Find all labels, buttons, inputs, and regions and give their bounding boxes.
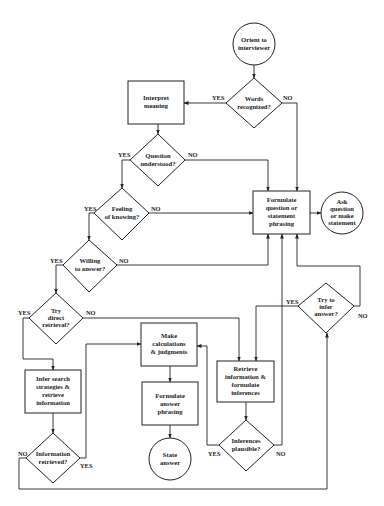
label-words-yes: YES	[212, 94, 225, 101]
edge-plausible-yes	[197, 346, 219, 445]
svg-text:question or: question or	[266, 204, 298, 211]
svg-text:retrieval?: retrieval?	[42, 321, 69, 328]
label-infer-yes: YES	[286, 298, 299, 305]
label-direct-no: NO	[86, 309, 96, 316]
node-information-retrieved: Information retrieved?	[26, 433, 80, 483]
node-formulate-question: Formulate question or statement phrasing	[253, 191, 310, 234]
edge-willing-yes	[56, 265, 63, 293]
svg-text:of knowing?: of knowing?	[105, 213, 140, 220]
node-feeling-of-knowing: Feeling of knowing?	[94, 188, 149, 240]
node-ask-question: Ask question or make statement	[321, 192, 363, 234]
svg-text:statement: statement	[268, 212, 296, 219]
svg-text:Try: Try	[51, 307, 62, 314]
svg-text:calculations: calculations	[152, 340, 186, 347]
node-try-to-infer: Try to infer answer?	[298, 283, 354, 333]
node-formulate-answer: Formulate answer phrasing	[142, 382, 198, 425]
label-willing-yes: YES	[50, 257, 63, 264]
node-retrieve-information: Retrieve information & formulate inferen…	[217, 361, 274, 402]
svg-text:plausible?: plausible?	[232, 445, 261, 452]
edge-retrieved-yes	[80, 344, 141, 458]
label-willing-no: NO	[119, 257, 129, 264]
node-inferences-plausible: Inferences plausible?	[219, 420, 274, 471]
svg-text:answer: answer	[160, 400, 180, 407]
flowchart-canvas: Orient to interviewer Words recognized? …	[0, 0, 384, 506]
node-words-recognized: Words recognized?	[226, 78, 282, 128]
svg-text:to answer?: to answer?	[75, 265, 106, 272]
svg-text:Information: Information	[36, 450, 71, 457]
svg-text:Retrieve: Retrieve	[234, 365, 258, 372]
svg-text:Formulate: Formulate	[155, 392, 185, 399]
edge-question-no	[185, 160, 268, 191]
edge-willing-no	[117, 234, 268, 265]
svg-text:Orient to: Orient to	[241, 36, 268, 43]
edge-infer-yes	[256, 306, 298, 361]
svg-text:answer?: answer?	[314, 310, 337, 317]
svg-text:strategies &: strategies &	[36, 383, 70, 390]
svg-text:answer: answer	[160, 459, 180, 466]
svg-text:Ask: Ask	[337, 198, 348, 205]
svg-text:Formulate: Formulate	[267, 196, 297, 203]
svg-text:Infer search: Infer search	[36, 375, 70, 382]
svg-text:Willing: Willing	[80, 257, 101, 264]
svg-text:retrieve: retrieve	[42, 391, 64, 398]
node-willing-to-answer: Willing to answer?	[63, 240, 117, 292]
svg-text:direct: direct	[48, 314, 65, 321]
svg-text:Inferences: Inferences	[231, 437, 261, 444]
svg-text:interviewer: interviewer	[238, 44, 270, 51]
node-infer-search-strategies: Infer search strategies & retrieve infor…	[25, 370, 81, 413]
svg-text:meaning: meaning	[144, 102, 169, 109]
edge-plausible-no	[274, 234, 282, 445]
svg-text:& judgments: & judgments	[151, 348, 188, 355]
label-feeling-yes: YES	[84, 205, 97, 212]
label-retrieved-yes: YES	[80, 462, 93, 469]
label-words-no: NO	[283, 94, 293, 101]
svg-text:or make: or make	[330, 212, 353, 219]
svg-text:Feeling: Feeling	[112, 205, 133, 212]
svg-text:question: question	[330, 205, 354, 212]
svg-text:inferences: inferences	[231, 389, 260, 396]
svg-text:Make: Make	[161, 332, 177, 339]
label-question-yes: YES	[118, 151, 131, 158]
svg-text:information &: information &	[225, 373, 266, 380]
svg-text:State: State	[163, 451, 177, 458]
edge-words-no	[282, 103, 297, 191]
svg-text:Question: Question	[145, 152, 171, 159]
label-plausible-yes: YES	[208, 450, 221, 457]
edge-question-yes	[122, 160, 130, 188]
label-plausible-no: NO	[276, 450, 286, 457]
edge-feeling-yes	[89, 213, 94, 240]
svg-text:recognized?: recognized?	[237, 103, 271, 110]
label-retrieved-no: NO	[18, 450, 28, 457]
svg-text:understood?: understood?	[140, 160, 175, 167]
svg-text:retrieved?: retrieved?	[39, 458, 68, 465]
label-infer-no: NO	[358, 312, 368, 319]
svg-text:statement: statement	[328, 219, 356, 226]
svg-text:Interpret: Interpret	[143, 94, 170, 101]
svg-text:formulate: formulate	[232, 381, 260, 388]
node-make-calculations: Make calculations & judgments	[141, 323, 197, 366]
svg-text:infer: infer	[319, 303, 333, 310]
svg-text:information: information	[36, 399, 70, 406]
svg-text:Words: Words	[245, 95, 264, 102]
svg-text:Try to: Try to	[317, 296, 335, 303]
label-direct-yes: YES	[18, 309, 31, 316]
node-orient: Orient to interviewer	[233, 23, 275, 65]
label-question-no: NO	[188, 151, 198, 158]
node-try-direct-retrieval: Try direct retrieval?	[29, 293, 83, 344]
svg-text:phrasing: phrasing	[269, 220, 295, 227]
node-interpret-meaning: Interpret meaning	[128, 81, 184, 124]
svg-text:phrasing: phrasing	[158, 408, 184, 415]
node-state-answer: State answer	[149, 438, 191, 480]
node-question-understood: Question understood?	[130, 134, 185, 186]
label-feeling-no: NO	[151, 205, 161, 212]
